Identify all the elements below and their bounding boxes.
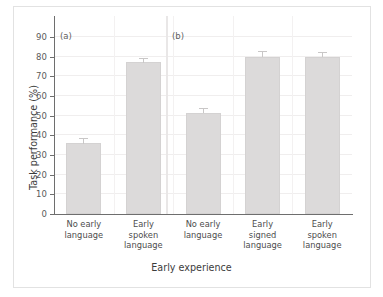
gridline-y-90: [54, 36, 352, 37]
error-bar: [322, 53, 323, 58]
panel-label-a: (a): [60, 31, 72, 41]
error-bar-cap: [139, 58, 148, 59]
x-tick-label: Early spoken language: [287, 219, 357, 251]
y-tick-70: [50, 76, 54, 77]
gridline-x-4: [292, 16, 293, 214]
y-axis-ticks: [50, 16, 54, 215]
panel-divider-line: [166, 16, 168, 214]
gridline-x-2: [173, 16, 174, 214]
y-tick-90: [50, 37, 54, 38]
figure-canvas: 0102030405060708090 (a) (b) No early lan…: [0, 0, 383, 297]
y-tick-label: 90: [36, 32, 47, 42]
error-bar-cap: [318, 52, 327, 53]
error-bar: [83, 139, 84, 144]
error-bar-cap: [258, 51, 267, 52]
error-bar: [262, 52, 263, 58]
y-tick-10: [50, 194, 54, 195]
gridline-x-1: [114, 16, 115, 214]
error-bar-cap: [199, 108, 208, 109]
error-bar: [203, 109, 204, 114]
y-tick-0: [50, 214, 54, 215]
y-axis-line: [54, 16, 55, 215]
bar: [305, 57, 340, 214]
panel-label-b: (b): [172, 31, 184, 41]
x-axis-line: [54, 214, 353, 215]
x-axis-title: Early experience: [0, 262, 383, 273]
bar: [245, 57, 280, 214]
error-bar: [143, 59, 144, 64]
gridline-x-3: [233, 16, 234, 214]
y-tick-80: [50, 57, 54, 58]
y-tick-20: [50, 175, 54, 176]
y-tick-40: [50, 135, 54, 136]
plot-area: [54, 16, 352, 214]
y-tick-label: 0: [41, 209, 47, 219]
y-tick-50: [50, 116, 54, 117]
bar: [186, 113, 221, 214]
error-bar-cap: [79, 138, 88, 139]
y-axis-tick-labels: 0102030405060708090: [0, 16, 47, 215]
y-tick-60: [50, 96, 54, 97]
y-tick-30: [50, 155, 54, 156]
y-axis-title: Task performance (%): [28, 58, 39, 218]
bar: [126, 62, 161, 214]
bar: [66, 143, 101, 214]
